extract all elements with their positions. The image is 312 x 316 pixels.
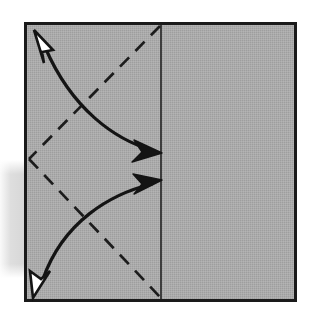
origami-fold-diagram: [0, 0, 312, 316]
diagram-canvas: [0, 0, 312, 316]
